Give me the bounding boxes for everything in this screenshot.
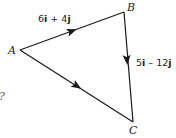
vertex-label-a: A — [7, 44, 16, 57]
vector-triangle-diagram: A B C 6i + 4j 5i – 12j ? — [0, 0, 176, 138]
vertex-label-c: C — [129, 124, 138, 137]
i-unit: i — [142, 57, 145, 68]
arrow-ac-icon — [71, 80, 84, 92]
i-unit: i — [44, 13, 47, 24]
ab-op: + — [50, 13, 58, 24]
bc-op: – — [148, 57, 153, 68]
vertex-label-b: B — [126, 1, 135, 14]
bc-j-coef: 12 — [156, 57, 168, 68]
j-unit: j — [167, 57, 171, 68]
arrow-ab-icon — [66, 26, 78, 37]
vector-label-ab: 6i + 4j — [38, 13, 71, 24]
edge-bc — [124, 12, 133, 122]
j-unit: j — [66, 13, 70, 24]
vector-label-bc: 5i – 12j — [136, 57, 171, 68]
arrow-bc-icon — [123, 55, 132, 66]
question-mark-fragment: ? — [0, 90, 5, 103]
